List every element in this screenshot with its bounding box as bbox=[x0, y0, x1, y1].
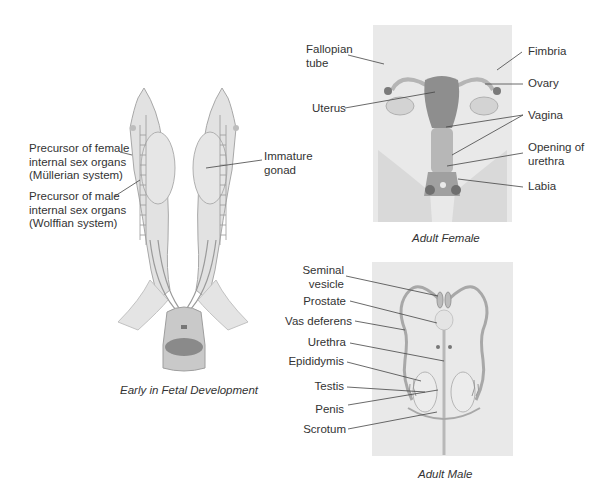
label-line: urethra bbox=[528, 155, 584, 169]
label-line: internal sex organs bbox=[29, 204, 126, 218]
label-line: vesicle bbox=[300, 278, 344, 292]
label-penis: Penis bbox=[280, 403, 344, 417]
label-line: (Müllerian system) bbox=[29, 169, 129, 183]
label-line: Precursor of female bbox=[29, 142, 129, 156]
label-epididymis: Epididymis bbox=[270, 355, 344, 369]
label-uterus: Uterus bbox=[312, 102, 346, 116]
label-mullerian-system: Precursor of female internal sex organs … bbox=[29, 142, 129, 183]
label-vas-deferens: Vas deferens bbox=[268, 315, 352, 329]
label-fallopian-tube: Fallopian tube bbox=[306, 43, 353, 70]
label-seminal-vesicle: Seminal vesicle bbox=[300, 264, 344, 291]
label-line: Immature bbox=[264, 150, 313, 164]
label-fimbria: Fimbria bbox=[528, 45, 566, 59]
male-illustration bbox=[401, 287, 487, 455]
label-immature-gonad: Immature gonad bbox=[264, 150, 313, 177]
label-line: (Wolffian system) bbox=[29, 217, 126, 231]
label-scrotum: Scrotum bbox=[280, 423, 346, 437]
label-opening-of-urethra: Opening of urethra bbox=[528, 141, 584, 168]
caption-adult-female: Adult Female bbox=[412, 232, 480, 244]
label-urethra: Urethra bbox=[280, 336, 346, 350]
label-line: tube bbox=[306, 57, 353, 71]
label-line: Precursor of male bbox=[29, 190, 126, 204]
female-illustration bbox=[378, 76, 507, 222]
caption-fetal: Early in Fetal Development bbox=[120, 384, 258, 396]
label-labia: Labia bbox=[528, 180, 556, 194]
fetal-illustration bbox=[118, 88, 248, 371]
label-ovary: Ovary bbox=[528, 77, 559, 91]
label-vagina: Vagina bbox=[528, 109, 563, 123]
label-line: Seminal bbox=[300, 264, 344, 278]
label-line: gonad bbox=[264, 164, 313, 178]
caption-adult-male: Adult Male bbox=[418, 468, 472, 480]
label-testis: Testis bbox=[280, 380, 344, 394]
label-line: internal sex organs bbox=[29, 156, 129, 170]
anatomy-illustrations bbox=[0, 0, 606, 491]
label-prostate: Prostate bbox=[280, 295, 346, 309]
label-line: Fallopian bbox=[306, 43, 353, 57]
label-line: Opening of bbox=[528, 141, 584, 155]
label-wolffian-system: Precursor of male internal sex organs (W… bbox=[29, 190, 126, 231]
